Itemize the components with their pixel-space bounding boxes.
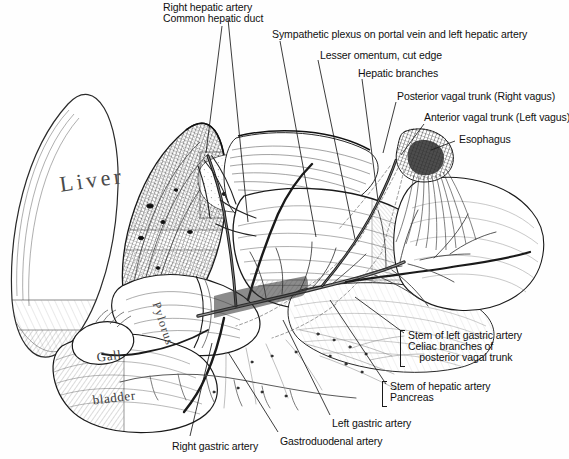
anatomical-plate: Liver Gall bladder Pylorus Right hepatic…	[0, 0, 569, 459]
callout-anterior-vagal-trunk: Anterior vagal trunk (Left vagus)	[424, 112, 569, 124]
bracket-stem-hepatic	[382, 381, 387, 407]
callout-sympathetic-plexus: Sympathetic plexus on portal vein and le…	[272, 29, 527, 41]
callout-left-gastric-artery: Left gastric artery	[332, 418, 411, 430]
gall-bladder-line-2: bladder	[86, 388, 143, 409]
callout-right-gastric-artery: Right gastric artery	[172, 441, 258, 453]
callout-posterior-vagal-trunk-cont: posterior vagal trunk	[408, 352, 512, 364]
callout-gastroduodenal-artery: Gastroduodenal artery	[280, 436, 382, 448]
gall-bladder-line-1: Gall	[80, 346, 137, 367]
callout-lesser-omentum: Lesser omentum, cut edge	[320, 50, 442, 62]
bracket-stem-left-gastric	[400, 330, 405, 367]
leader-posterior-vagal-trunk	[383, 102, 396, 153]
callout-common-hepatic-duct: Common hepatic duct	[163, 13, 263, 25]
gastric-fundus-right	[394, 177, 544, 310]
leader-gastroduodenal-artery	[228, 352, 278, 432]
callout-pancreas: Pancreas	[390, 392, 434, 404]
callout-posterior-vagal-trunk: Posterior vagal trunk (Right vagus)	[397, 91, 555, 103]
callout-esophagus: Esophagus	[459, 134, 511, 146]
callout-hepatic-branches: Hepatic branches	[358, 68, 438, 80]
